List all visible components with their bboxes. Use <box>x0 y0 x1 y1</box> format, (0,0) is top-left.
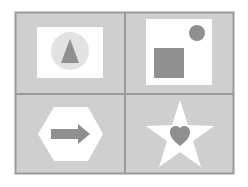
square-icon <box>154 48 184 78</box>
icon-grid <box>0 0 248 187</box>
dot-icon <box>189 25 205 41</box>
cell-top-left <box>37 27 103 78</box>
icon-grid-canvas <box>0 0 248 187</box>
cell-top-right <box>146 19 212 85</box>
